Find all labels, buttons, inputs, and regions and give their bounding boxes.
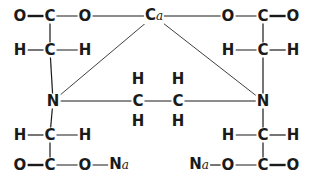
atom-h7: H: [131, 114, 146, 129]
atom-c8: C: [256, 128, 269, 143]
atom-h5: H: [131, 72, 146, 87]
atom-h2: H: [78, 43, 93, 58]
atom-c10: C: [256, 158, 269, 173]
atom-o3: O: [221, 9, 236, 24]
atom-o6: O: [78, 158, 93, 173]
atom-c7: C: [43, 128, 56, 143]
atom-na1: Na: [108, 157, 130, 173]
atom-o8: O: [286, 158, 301, 173]
atom-c9: C: [43, 158, 56, 173]
atom-h3: H: [221, 43, 236, 58]
coordinate-bond: [53, 16, 154, 101]
atom-h12: H: [286, 128, 301, 143]
atom-ca: Ca: [144, 8, 164, 24]
atom-h9: H: [13, 128, 28, 143]
atom-h1: H: [13, 43, 28, 58]
atom-o7: O: [221, 158, 236, 173]
atom-c6: C: [171, 94, 184, 109]
atom-o5: O: [13, 158, 28, 173]
atom-n1: N: [46, 94, 61, 109]
coordinate-bond: [154, 16, 263, 101]
atom-h4: H: [286, 43, 301, 58]
atom-c1: C: [43, 9, 56, 24]
atom-h8: H: [171, 114, 186, 129]
atom-h6: H: [171, 72, 186, 87]
atom-c4: C: [256, 43, 269, 58]
atom-h10: H: [78, 128, 93, 143]
atom-c5: C: [131, 94, 144, 109]
atom-o1: O: [13, 9, 28, 24]
atom-n2: N: [256, 94, 271, 109]
atom-na2: Na: [188, 157, 210, 173]
chemical-structure-diagram: OCOCaOCOHCHHCHHHNCCNHHHCHHCHOCONaNaOCO: [0, 0, 318, 186]
atom-o2: O: [78, 9, 93, 24]
atom-c3: C: [43, 43, 56, 58]
atom-h11: H: [221, 128, 236, 143]
atom-c2: C: [256, 9, 269, 24]
atom-o4: O: [286, 9, 301, 24]
